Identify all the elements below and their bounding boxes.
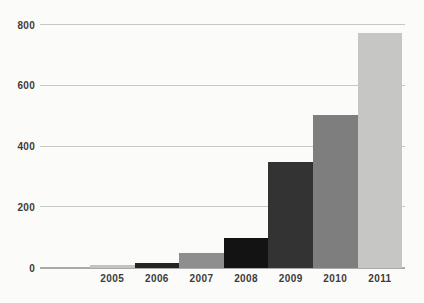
y-axis-tick-label-200: 200 — [0, 202, 35, 213]
x-axis-tick-label-2007: 2007 — [179, 273, 224, 285]
bar-2010 — [313, 115, 358, 268]
plot-area — [40, 25, 405, 268]
x-axis-tick-label-2010: 2010 — [313, 273, 358, 285]
x-axis-tick-label-2009: 2009 — [268, 273, 313, 285]
bar-2008 — [224, 238, 269, 268]
gridline-y-600 — [40, 85, 405, 86]
bar-2006 — [135, 263, 180, 268]
bar-2005 — [90, 265, 135, 268]
bar-chart: 0200400600800200520062007200820092010201… — [0, 0, 424, 303]
y-axis-tick-label-800: 800 — [0, 20, 35, 31]
x-axis-tick-label-2011: 2011 — [358, 273, 403, 285]
bar-2011 — [358, 33, 403, 268]
gridline-y-800 — [40, 24, 405, 25]
y-axis-tick-label-0: 0 — [0, 263, 35, 274]
x-axis-tick-label-2005: 2005 — [90, 273, 135, 285]
x-axis-tick-label-2006: 2006 — [135, 273, 180, 285]
y-axis-tick-label-600: 600 — [0, 80, 35, 91]
bar-2009 — [268, 162, 313, 268]
x-axis-tick-label-2008: 2008 — [224, 273, 269, 285]
bar-2007 — [179, 253, 224, 268]
y-axis-tick-label-400: 400 — [0, 141, 35, 152]
